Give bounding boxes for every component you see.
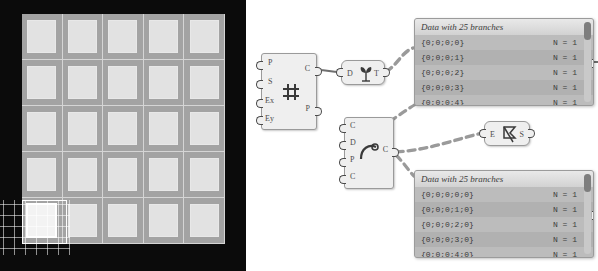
grid-cell-face xyxy=(28,21,55,52)
panel-upper-title: Data with 25 branches xyxy=(415,19,593,35)
node1-input-port-ex[interactable] xyxy=(256,99,263,108)
node4-output-label-s: S xyxy=(520,130,524,139)
grid-cell[interactable] xyxy=(22,60,63,106)
viewport-mask-right xyxy=(225,0,246,271)
panel-lower-output-port[interactable] xyxy=(592,211,594,220)
grid-cell[interactable] xyxy=(22,14,63,60)
branch-count: N = 1 xyxy=(553,250,577,258)
panel-upper-scrollbar-thumb[interactable] xyxy=(584,22,591,40)
grid-cell[interactable] xyxy=(63,106,104,152)
node3-input-label-p: P xyxy=(350,155,354,164)
grid-cell-face xyxy=(150,113,177,144)
grid-cell-face xyxy=(69,113,96,144)
grid-cell-face xyxy=(28,159,55,190)
node1-input-label-s: S xyxy=(268,77,272,86)
wire-deconstruct-to-panel-upper xyxy=(386,48,413,72)
grid-row xyxy=(22,14,225,60)
node3-input-label-c1: C xyxy=(350,121,355,130)
node2-output-port-t[interactable] xyxy=(383,68,390,77)
node4-input-port-e[interactable] xyxy=(479,129,486,138)
node2-output-label-t: T xyxy=(374,69,379,78)
grid-cell[interactable] xyxy=(144,60,185,106)
grid-cell[interactable] xyxy=(103,106,144,152)
grid-cell-face xyxy=(191,67,218,98)
grid-cell[interactable] xyxy=(144,198,185,244)
selected-cell-outline xyxy=(22,200,67,244)
node1-input-label-ex: Ex xyxy=(265,96,274,105)
grid-cell[interactable] xyxy=(63,152,104,198)
grid-cell[interactable] xyxy=(184,60,225,106)
grid-cell-face xyxy=(109,205,136,236)
grid-cell[interactable] xyxy=(103,14,144,60)
grid-cell[interactable] xyxy=(144,14,185,60)
grid-cell[interactable] xyxy=(184,152,225,198)
branch-count: N = 1 xyxy=(553,83,577,92)
node1-input-port-s[interactable] xyxy=(256,80,263,89)
branch-path: {0;0;0;4;0} xyxy=(421,250,474,258)
grid-cell[interactable] xyxy=(103,198,144,244)
node3-input-port-c2[interactable] xyxy=(339,175,346,184)
node1-input-port-p[interactable] xyxy=(256,61,263,70)
table-row: {0;0;0;2;0} N = 1 xyxy=(415,217,593,232)
grid-cell[interactable] xyxy=(22,106,63,152)
branch-count: N = 1 xyxy=(553,235,577,244)
node-explode[interactable]: E S xyxy=(484,121,530,146)
node2-input-port-d[interactable] xyxy=(336,68,343,77)
panel-lower[interactable]: Data with 25 branches {0;0;0;0;0} N = 1 … xyxy=(414,170,594,258)
node1-input-label-ey: Ey xyxy=(265,114,274,123)
node1-output-label-c: C xyxy=(305,64,310,73)
grid-cell-face xyxy=(150,67,177,98)
branch-path: {0;0;0;2;0} xyxy=(421,220,474,229)
node3-input-label-c2: C xyxy=(350,172,355,181)
panel-upper-output-port[interactable] xyxy=(592,59,594,68)
node4-output-port-s[interactable] xyxy=(528,129,535,138)
node-curve[interactable]: C D P C C xyxy=(344,117,394,189)
grid-cell[interactable] xyxy=(103,152,144,198)
branch-count: N = 1 xyxy=(553,220,577,229)
screenshot-root: P S Ex Ey C P D T C xyxy=(0,0,598,271)
branch-count: N = 1 xyxy=(553,190,577,199)
grasshopper-canvas[interactable]: P S Ex Ey C P D T C xyxy=(246,0,598,271)
node3-input-port-d[interactable] xyxy=(339,141,346,150)
table-row: {0;0;0;0;0} N = 1 xyxy=(415,187,593,202)
grid-cell[interactable] xyxy=(184,106,225,152)
grid-cell-face xyxy=(109,159,136,190)
rhino-viewport[interactable] xyxy=(0,0,246,271)
table-row: {0;0;0;1;0} N = 1 xyxy=(415,202,593,217)
grid-cell[interactable] xyxy=(144,106,185,152)
branch-count: N = 1 xyxy=(553,68,577,77)
node3-output-port-c[interactable] xyxy=(392,148,399,157)
grid-row xyxy=(22,60,225,106)
branch-path: {0;0;0;4} xyxy=(421,98,464,106)
grid-cell-face xyxy=(69,205,96,236)
grid-cell[interactable] xyxy=(63,60,104,106)
grid-cell[interactable] xyxy=(103,60,144,106)
arc-icon xyxy=(359,142,379,162)
panel-upper[interactable]: Data with 25 branches {0;0;0;0} N = 1 {0… xyxy=(414,18,594,106)
table-row: {0;0;0;3} N = 1 xyxy=(415,80,593,95)
grid-cell-face xyxy=(109,113,136,144)
grid-cell-face xyxy=(150,159,177,190)
panel-lower-scrollbar-thumb[interactable] xyxy=(584,174,591,192)
branch-count: N = 1 xyxy=(553,38,577,47)
grid-cell[interactable] xyxy=(184,198,225,244)
node3-input-port-p[interactable] xyxy=(339,158,346,167)
grid-cell-face xyxy=(69,159,96,190)
table-row: {0;0;0;4} N = 1 xyxy=(415,95,593,106)
table-row: {0;0;0;1} N = 1 xyxy=(415,50,593,65)
branch-count: N = 1 xyxy=(553,98,577,106)
grid-cell[interactable] xyxy=(22,152,63,198)
grid-cell[interactable] xyxy=(184,14,225,60)
node-deconstruct[interactable]: D T xyxy=(341,60,385,85)
node3-input-port-c1[interactable] xyxy=(339,124,346,133)
grid-cell-face xyxy=(69,21,96,52)
node1-output-port-c[interactable] xyxy=(315,67,322,76)
node1-output-port-p[interactable] xyxy=(315,107,322,116)
grid-cell[interactable] xyxy=(144,152,185,198)
branch-path: {0;0;0;0} xyxy=(421,38,464,47)
branch-count: N = 1 xyxy=(553,53,577,62)
node-rectangular-grid[interactable]: P S Ex Ey C P xyxy=(261,53,317,130)
wire-curve-to-explode xyxy=(396,133,482,152)
node1-input-port-ey[interactable] xyxy=(256,116,263,125)
grid-cell[interactable] xyxy=(63,14,104,60)
